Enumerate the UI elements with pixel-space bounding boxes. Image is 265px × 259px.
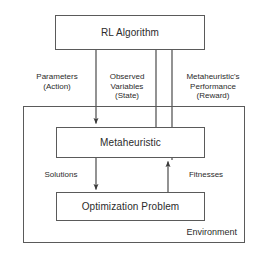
edge-label-performance-reward-line2: Performance (178, 82, 248, 92)
edge-label-performance-reward-line1: Metaheuristic's (178, 72, 248, 82)
edge-label-solutions: Solutions (33, 170, 89, 180)
node-optimization-problem-label: Optimization Problem (82, 201, 180, 212)
edge-label-parameters-line2: (Action) (26, 82, 88, 92)
environment-label: Environment (155, 227, 237, 237)
diagram-canvas: RL Algorithm Metaheuristic Optimization … (0, 0, 265, 259)
edge-label-performance-reward-line3: (Reward) (178, 91, 248, 101)
edge-label-observed-variables-line1: Observed (102, 72, 152, 82)
node-rl-algorithm[interactable]: RL Algorithm (55, 15, 205, 50)
node-metaheuristic-label: Metaheuristic (100, 137, 161, 148)
node-optimization-problem[interactable]: Optimization Problem (56, 192, 205, 221)
edge-label-observed-variables-line3: (State) (102, 91, 152, 101)
node-rl-algorithm-label: RL Algorithm (101, 27, 159, 38)
edge-label-solutions-text: Solutions (33, 170, 89, 180)
edge-label-fitnesses-text: Fitnesses (178, 170, 234, 180)
node-metaheuristic[interactable]: Metaheuristic (56, 127, 205, 158)
edge-label-fitnesses: Fitnesses (178, 170, 234, 180)
edge-label-performance-reward: Metaheuristic's Performance (Reward) (178, 72, 248, 101)
edge-label-observed-variables-line2: Variables (102, 82, 152, 92)
edge-label-parameters: Parameters (Action) (26, 72, 88, 91)
edge-label-observed-variables: Observed Variables (State) (102, 72, 152, 101)
edge-label-parameters-line1: Parameters (26, 72, 88, 82)
